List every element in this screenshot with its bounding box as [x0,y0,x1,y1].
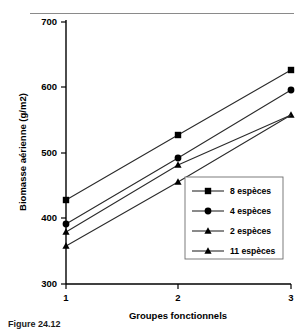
chart-plot: 700 600 500 400 300 1 2 3 Biomasse aérie… [0,0,304,330]
triangle-marker-icon [62,242,69,249]
circle-marker-icon [205,208,212,215]
y-tick-label-500: 500 [41,147,57,158]
y-tick-label-700: 700 [41,16,57,27]
legend-label-8-especes: 8 espèces [230,186,271,196]
triangle-marker-icon [62,228,69,235]
circle-marker-icon [175,155,182,162]
figure-container: 700 600 500 400 300 1 2 3 Biomasse aérie… [0,0,304,330]
triangle-marker-icon [174,161,181,168]
y-tick-label-300: 300 [41,278,57,289]
y-axis-title: Biomasse aérienne (g/m2) [17,93,28,211]
legend-label-2-especes: 2 espèces [230,226,271,236]
x-tick-label-3: 3 [288,292,293,303]
circle-marker-icon [288,87,295,94]
square-marker-icon [288,67,294,73]
chart-legend: 8 espèces 4 espèces 2 espèces 11 espèces [185,177,283,259]
circle-marker-icon [63,221,70,228]
square-marker-icon [63,197,69,203]
y-tick-label-600: 600 [41,81,57,92]
legend-label-11-especes: 11 espèces [230,246,276,256]
figure-caption: Figure 24.12 [8,319,298,330]
x-tick-label-2: 2 [175,292,180,303]
y-tick-label-400: 400 [41,212,57,223]
square-marker-icon [205,188,211,194]
legend-label-4-especes: 4 espèces [230,206,271,216]
triangle-marker-icon [174,178,181,185]
x-tick-label-1: 1 [63,292,69,303]
square-marker-icon [175,132,181,138]
